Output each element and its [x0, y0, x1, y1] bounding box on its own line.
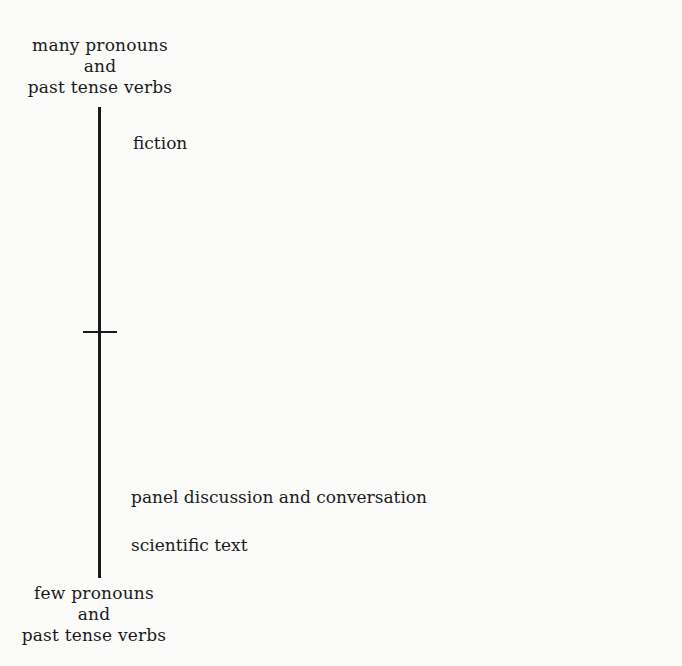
top-pole-label: many pronouns and past tense verbs [0, 35, 200, 98]
dimension-axis-line [98, 107, 101, 578]
top-pole-line-1: many pronouns [0, 35, 200, 56]
point-label-scientific-text: scientific text [131, 535, 248, 555]
point-label-panel-discussion: panel discussion and conversation [131, 487, 427, 507]
top-pole-line-3: past tense verbs [0, 77, 200, 98]
bottom-pole-line-2: and [0, 604, 194, 625]
bottom-pole-label: few pronouns and past tense verbs [0, 583, 194, 646]
top-pole-line-2: and [0, 56, 200, 77]
bottom-pole-line-3: past tense verbs [0, 625, 194, 646]
bottom-pole-line-1: few pronouns [0, 583, 194, 604]
midpoint-tick [83, 331, 117, 333]
point-label-fiction: fiction [133, 133, 187, 153]
